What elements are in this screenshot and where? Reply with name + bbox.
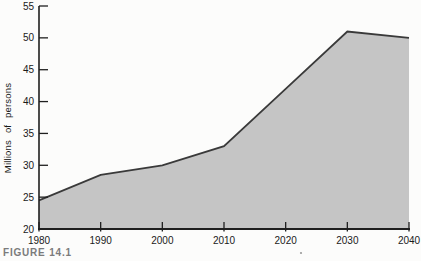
x-tick-label: 2010	[213, 235, 236, 246]
x-tick-label: 1990	[90, 235, 113, 246]
y-tick-label: 35	[23, 128, 35, 139]
y-tick-label: 25	[23, 192, 35, 203]
y-tick-label: 40	[23, 96, 35, 107]
y-axis-title: Millions of persons	[2, 83, 13, 174]
area-chart: 2025303540455055198019902000201020202030…	[0, 0, 421, 261]
x-tick-label: 2020	[275, 235, 298, 246]
figure-page: 2025303540455055198019902000201020202030…	[0, 0, 421, 261]
area-fill	[39, 31, 409, 229]
x-tick-label: 2030	[336, 235, 359, 246]
y-tick-label: 45	[23, 64, 35, 75]
y-tick-label: 20	[23, 224, 35, 235]
y-tick-label: 50	[23, 32, 35, 43]
figure-caption: FIGURE 14.1	[3, 247, 72, 258]
x-tick-label: 2000	[151, 235, 174, 246]
y-tick-label: 30	[23, 160, 35, 171]
x-tick-label: 1980	[28, 235, 51, 246]
y-tick-label: 55	[23, 1, 35, 12]
x-tick-label: 2040	[398, 235, 421, 246]
stray-mark	[300, 252, 302, 254]
